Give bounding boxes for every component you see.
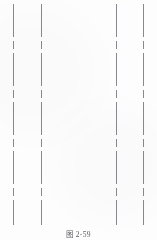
figure-page: 图 2-59	[0, 0, 157, 240]
center-line-2	[41, 4, 42, 225]
figure-caption: 图 2-59	[0, 228, 157, 239]
center-line-1	[13, 4, 14, 225]
center-line-3	[116, 4, 117, 225]
center-line-4	[143, 4, 144, 225]
figure-drawing-canvas	[0, 0, 157, 240]
